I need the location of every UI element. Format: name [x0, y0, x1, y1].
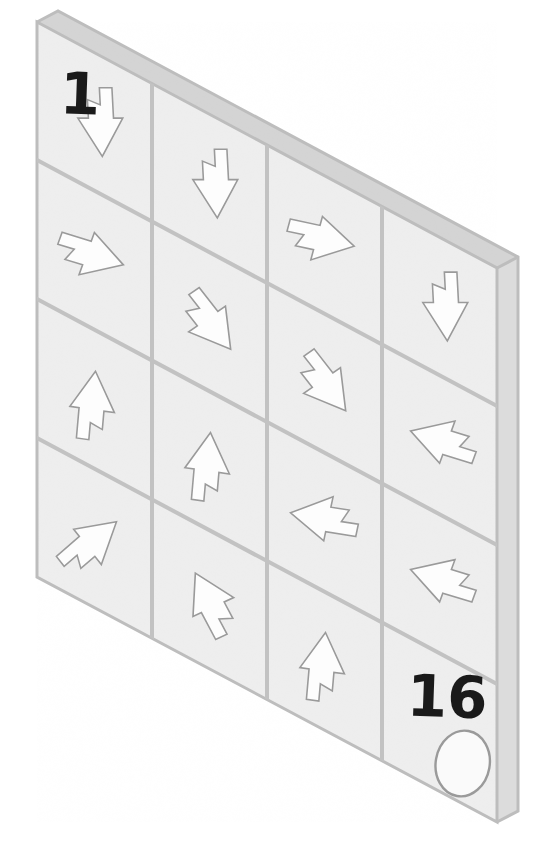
puzzle-stage: 116	[0, 0, 551, 863]
end-cell-label: 16	[406, 662, 489, 733]
board-right-bevel	[497, 257, 518, 822]
start-cell-label: 1	[59, 59, 102, 128]
arrow-maze-board: 116	[0, 0, 551, 863]
